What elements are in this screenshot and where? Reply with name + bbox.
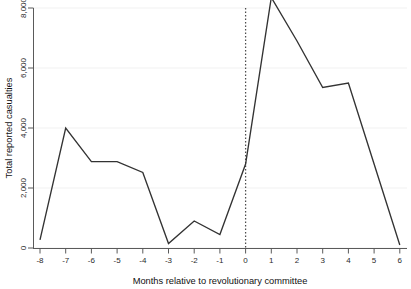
x-axis-tick-label: 6 [398,256,403,265]
y-axis-tick-label: 0 [19,245,28,250]
x-axis-tick-label: -8 [36,256,44,265]
y-axis-ticks-group: 02,0004,0006,0008,000 [19,0,33,250]
x-axis-tick-label: -1 [216,256,224,265]
x-axis-tick-label: -6 [88,256,96,265]
chart-container: 02,0004,0006,0008,000 -8-7-6-5-4-3-2-101… [0,0,411,289]
x-axis-tick-label: -2 [191,256,199,265]
y-axis-tick-label: 2,000 [19,177,28,198]
x-axis-tick-label: 2 [295,256,300,265]
x-axis-tick-label: 0 [243,256,248,265]
y-axis-tick-label: 8,000 [19,0,28,18]
y-axis-title: Total reported casualties [4,77,14,178]
x-axis-tick-label: -5 [114,256,122,265]
line-chart: 02,0004,0006,0008,000 -8-7-6-5-4-3-2-101… [0,0,411,289]
x-axis-tick-label: 3 [320,256,325,265]
x-axis-tick-label: -4 [139,256,147,265]
x-axis-tick-label: 1 [269,256,274,265]
x-axis-tick-label: -3 [165,256,173,265]
x-axis-tick-label: 4 [346,256,351,265]
x-axis-title: Months relative to revolutionary committ… [133,276,308,286]
x-axis-tick-label: -7 [62,256,70,265]
x-axis-tick-label: 5 [372,256,377,265]
x-axis-ticks-group: -8-7-6-5-4-3-2-10123456 [36,249,402,266]
y-axis-tick-label: 6,000 [19,57,28,78]
y-axis-tick-label: 4,000 [19,117,28,138]
